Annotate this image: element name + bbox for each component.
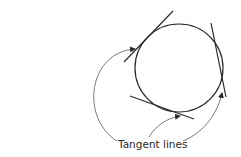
tangent-lines-diagram: Tangent lines xyxy=(0,0,241,157)
arrow-to-upper-left-tangent xyxy=(94,49,135,141)
tangent-line-bottom xyxy=(130,96,194,119)
arrow-to-bottom-tangent xyxy=(149,116,180,137)
tangent-line-right xyxy=(211,23,226,97)
tangent-line-upper-left xyxy=(124,11,173,62)
tangent-lines-label: Tangent lines xyxy=(117,138,187,150)
